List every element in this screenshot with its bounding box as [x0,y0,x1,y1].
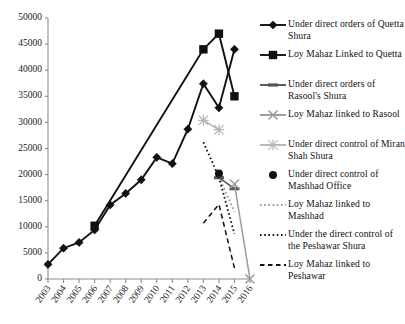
series-3 [230,179,255,283]
y-axis-tick-label: 30000 [18,117,42,127]
y-axis-tick-label: 35000 [18,90,42,100]
legend-item-miran-shah-shura[interactable]: Under direct control of Miran Shah Shura [258,136,405,164]
y-axis-tick-label: 40000 [18,64,42,74]
legend-item-mashhad-office[interactable]: Under direct control of Mashhad Office [258,166,405,194]
series-0 [44,45,239,268]
legend-item-quetta-shura[interactable]: Under direct orders of Quetta Shura [258,16,405,44]
y-axis-tick-label: 10000 [18,221,42,231]
data-series-group [44,29,255,283]
dotted-black-line-icon [258,226,288,254]
x-axis-tick-label: 2016 [236,283,255,305]
x-axis-tick-label: 2007 [96,283,115,305]
x-axis-tick-label: 2009 [127,283,146,305]
dash-marker-icon [258,76,288,104]
series-5 [215,170,223,178]
legend-label: Under direct orders of Quetta Shura [288,16,405,41]
x-axis-tick-label: 2004 [49,283,68,305]
legend-item-loy-mahaz-rasool[interactable]: Loy Mahaz linked to Rasool [258,106,405,134]
x-axis-tick-label: 2014 [204,283,223,305]
legend-label: Loy Mahaz linked to Peshawar [288,256,405,281]
y-axis-tick-label: 20000 [18,169,42,179]
chart-container: 0500010000150002000025000300003500040000… [0,0,405,324]
legend-item-loy-mahaz-mashhad[interactable]: Loy Mahaz linked to Mashhad [258,196,405,224]
legend-label: Under direct control of Mashhad Office [288,166,405,191]
legend-label: Loy Mahaz linked to Mashhad [288,196,405,221]
series-4 [198,115,224,135]
y-axis-tick-label: 5000 [23,247,42,257]
legend-item-loy-mahaz-peshawar[interactable]: Loy Mahaz linked to Peshawar [258,256,405,284]
x-axis: 2003200420052006200720082009201020112012… [34,279,255,305]
x-axis-tick-label: 2006 [80,283,99,305]
legend-label: Loy Mahaz linked to Rasool [288,106,400,120]
x-axis-tick-label: 2013 [189,283,208,305]
dotted-gray-line-icon [258,196,288,224]
legend-label: Under direct orders of Rasool's Shura [288,76,405,101]
x-axis-tick-label: 2005 [65,283,84,305]
x-axis-tick-label: 2003 [34,283,53,305]
y-axis-tick-label: 25000 [18,143,42,153]
circle-marker-icon [258,166,288,194]
diamond-marker-icon [258,16,288,44]
x-axis-tick-label: 2010 [142,283,161,305]
legend-item-peshawar-shura[interactable]: Under the direct control of the Peshawar… [258,226,405,254]
y-axis-tick-label: 50000 [18,12,42,22]
x-axis-tick-label: 2008 [111,283,130,305]
square-marker-icon [258,46,288,74]
chart-legend: Under direct orders of Quetta Shura Loy … [258,16,405,286]
x-axis-tick-label: 2012 [173,283,192,305]
x-axis-tick-label: 2015 [220,283,239,305]
y-axis-tick-label: 15000 [18,195,42,205]
x-axis-tick-label: 2011 [158,283,177,304]
legend-label: Under the direct control of the Peshawar… [288,226,405,251]
legend-item-rasool-shura[interactable]: Under direct orders of Rasool's Shura [258,76,405,104]
dashed-black-line-icon [258,256,288,284]
y-axis-tick-label: 0 [37,273,42,283]
legend-label: Under direct control of Miran Shah Shura [288,136,405,161]
x-marker-icon [258,106,288,134]
legend-label: Loy Mahaz Linked to Quetta [288,46,402,60]
legend-item-loy-mahaz-quetta[interactable]: Loy Mahaz Linked to Quetta [258,46,405,74]
y-axis-tick-label: 45000 [18,38,42,48]
y-axis: 0500010000150002000025000300003500040000… [18,12,48,283]
asterisk-marker-icon [258,136,288,164]
